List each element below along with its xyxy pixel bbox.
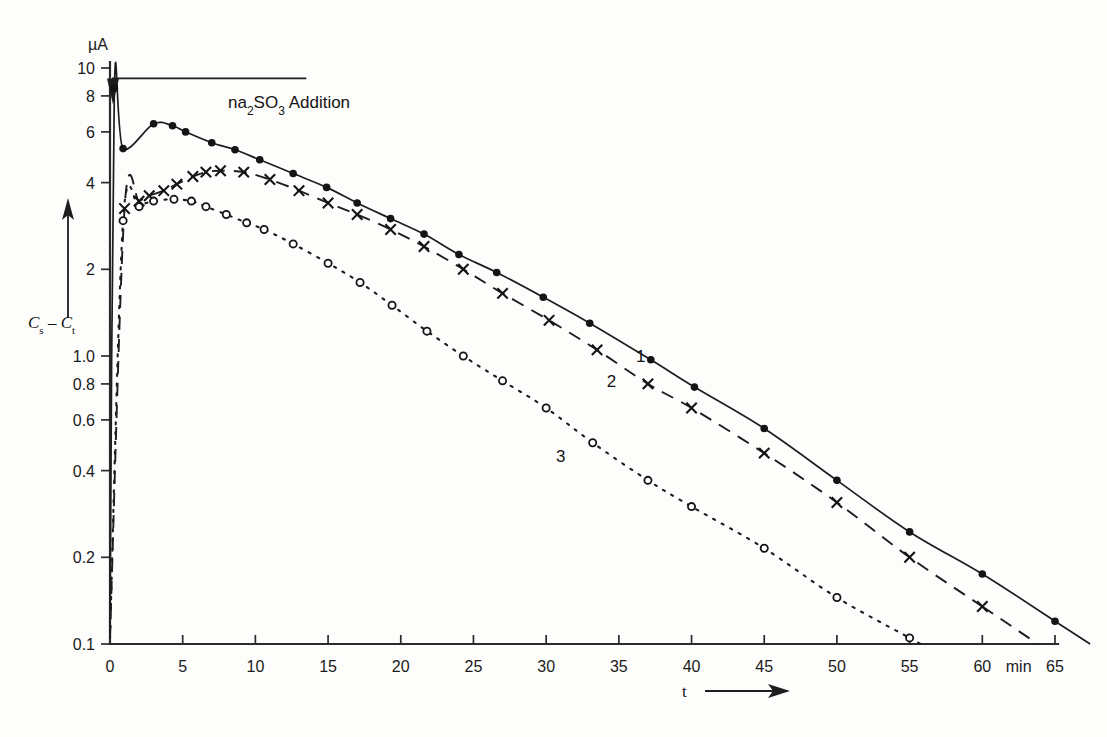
data-point-series-1 <box>539 293 547 301</box>
x-tick-label: 20 <box>392 658 410 675</box>
data-point-series-1 <box>323 184 331 192</box>
x-axis-title: t <box>682 682 687 701</box>
y-tick-label: 10 <box>77 60 95 77</box>
data-point-series-2 <box>172 179 182 189</box>
x-axis-unit-label: min <box>1006 658 1032 675</box>
chart-plot: 1086421.00.80.60.40.20.10510152025303540… <box>0 0 1107 737</box>
y-tick-label: 0.6 <box>73 412 95 429</box>
annotation-label: na2SO3 Addition <box>228 93 350 118</box>
y-tick-label: 0.8 <box>73 376 95 393</box>
x-tick-label: 0 <box>106 658 115 675</box>
data-point-series-3 <box>499 377 506 384</box>
y-axis-unit-label: µA <box>88 36 108 53</box>
y-tick-label: 0.2 <box>73 549 95 566</box>
data-point-series-2 <box>265 174 275 184</box>
data-point-series-2 <box>497 288 507 298</box>
data-point-series-1 <box>760 425 768 433</box>
y-tick-label: 0.1 <box>73 636 95 653</box>
x-tick-label: 35 <box>610 658 628 675</box>
data-point-series-1 <box>387 215 395 223</box>
curve-3 <box>110 186 910 638</box>
data-point-series-1 <box>289 170 297 178</box>
data-point-series-1 <box>455 251 463 259</box>
data-point-series-3 <box>356 279 363 286</box>
data-point-series-2 <box>294 185 304 195</box>
data-point-series-1 <box>906 528 914 536</box>
data-point-series-3 <box>188 198 195 205</box>
figure-container: 1086421.00.80.60.40.20.10510152025303540… <box>0 0 1107 737</box>
data-point-series-2 <box>759 448 769 458</box>
data-point-series-2 <box>188 171 198 181</box>
y-tick-label: 8 <box>86 88 95 105</box>
data-point-series-3 <box>324 260 331 267</box>
curve-label-2: 2 <box>607 372 616 391</box>
data-point-series-3 <box>202 203 209 210</box>
curve-label-1: 1 <box>636 347 645 366</box>
data-point-series-3 <box>460 352 467 359</box>
data-point-series-1 <box>256 156 264 164</box>
data-point-series-2 <box>643 379 653 389</box>
data-point-series-2 <box>832 497 842 507</box>
data-point-series-2 <box>544 315 554 325</box>
data-point-series-1 <box>169 122 177 130</box>
data-point-series-1 <box>182 128 190 136</box>
data-point-series-2 <box>458 264 468 274</box>
data-point-series-3 <box>223 211 230 218</box>
x-tick-label: 65 <box>1046 658 1064 675</box>
data-point-series-3 <box>261 226 268 233</box>
x-tick-label: 5 <box>178 658 187 675</box>
data-point-series-2 <box>592 345 602 355</box>
data-point-series-1 <box>119 145 127 153</box>
data-point-series-2 <box>159 185 169 195</box>
data-point-series-3 <box>543 404 550 411</box>
data-point-series-1 <box>1051 617 1059 625</box>
data-point-series-1 <box>647 356 655 364</box>
x-tick-label: 25 <box>465 658 483 675</box>
data-point-series-3 <box>688 503 695 510</box>
y-tick-label: 0.4 <box>73 463 95 480</box>
y-tick-label: 1.0 <box>73 348 95 365</box>
x-tick-label: 10 <box>246 658 264 675</box>
x-tick-label: 60 <box>973 658 991 675</box>
x-tick-label: 45 <box>755 658 773 675</box>
data-point-series-1 <box>691 383 699 391</box>
data-point-series-3 <box>290 240 297 247</box>
data-point-series-3 <box>170 196 177 203</box>
data-point-series-1 <box>833 477 841 485</box>
curve-2-tail <box>982 606 1038 644</box>
data-point-series-1 <box>231 146 239 154</box>
data-point-series-3 <box>135 203 142 210</box>
data-point-series-1 <box>420 230 428 238</box>
y-tick-label: 6 <box>86 124 95 141</box>
data-point-series-2 <box>352 209 362 219</box>
x-tick-label: 15 <box>319 658 337 675</box>
data-point-series-3 <box>119 217 126 224</box>
data-point-series-2 <box>686 403 696 413</box>
y-tick-label: 2 <box>86 261 95 278</box>
data-point-series-1 <box>150 120 158 128</box>
data-point-series-3 <box>243 219 250 226</box>
data-point-series-1 <box>353 199 361 207</box>
x-tick-label: 30 <box>537 658 555 675</box>
data-point-series-1 <box>208 139 216 147</box>
x-tick-label: 40 <box>683 658 701 675</box>
data-point-series-3 <box>644 477 651 484</box>
data-point-series-2 <box>323 198 333 208</box>
y-axis-title: Cs – Ct <box>28 313 75 336</box>
data-point-series-3 <box>906 634 913 641</box>
y-tick-label: 4 <box>86 175 95 192</box>
data-point-series-1 <box>493 269 501 277</box>
curve-label-3: 3 <box>556 447 565 466</box>
data-point-series-3 <box>761 545 768 552</box>
data-point-series-3 <box>833 594 840 601</box>
x-tick-label: 50 <box>828 658 846 675</box>
data-point-series-1 <box>111 85 119 93</box>
data-point-series-2 <box>977 601 987 611</box>
data-point-series-3 <box>150 198 157 205</box>
data-point-series-3 <box>589 439 596 446</box>
curve-1 <box>110 62 1055 638</box>
data-point-series-2 <box>385 224 395 234</box>
x-tick-label: 55 <box>901 658 919 675</box>
data-point-series-2 <box>419 241 429 251</box>
data-point-series-2 <box>904 552 914 562</box>
